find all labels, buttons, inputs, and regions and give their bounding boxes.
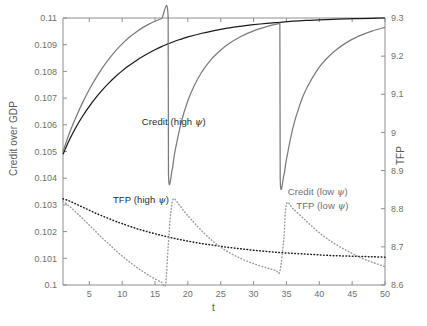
series-line-tfp-low — [63, 199, 385, 287]
y-tick-label-right: 8.7 — [391, 242, 404, 252]
y-tick-label-right: 9.3 — [391, 13, 404, 23]
series-label-tfp-low: TFP (low ψ) — [296, 200, 348, 211]
x-axis-title: t — [0, 302, 427, 313]
series-label-tfp-high: TFP (high ψ) — [113, 194, 169, 205]
y-tick-label-left: 0.105 — [34, 147, 57, 157]
x-tick-label: 10 — [117, 289, 127, 299]
x-tick-label: 35 — [281, 289, 291, 299]
paren-close: ) — [202, 116, 205, 127]
x-tick-label: 15 — [150, 289, 160, 299]
y-tick-label-left: 0.101 — [34, 254, 57, 264]
y-tick-label-left: 0.109 — [34, 40, 57, 50]
chart-canvas: 51015202530354045500.10.1010.1020.1030.1… — [0, 0, 427, 326]
psi-glyph: ψ — [158, 194, 166, 205]
y-tick-label-left: 0.107 — [34, 93, 57, 103]
psi-glyph: ψ — [337, 186, 345, 197]
x-tick-label: 20 — [183, 289, 193, 299]
x-tick-label: 45 — [347, 289, 357, 299]
series-label-credit-low: Credit (low ψ) — [288, 186, 348, 197]
paren-close: ) — [166, 194, 169, 205]
series-label-tfp-high-text: TFP (high — [113, 194, 158, 205]
y-axis-right-title: TFP — [395, 126, 406, 186]
y-tick-label-left: 0.104 — [34, 173, 57, 183]
y-axis-left-title: Credit over GDP — [8, 79, 19, 199]
y-tick-label-left: 0.1 — [44, 280, 57, 290]
series-label-tfp-low-text: TFP (low — [296, 200, 337, 211]
series-label-credit-low-text: Credit (low — [288, 186, 337, 197]
series-label-credit-high-text: Credit (high — [142, 116, 195, 127]
x-tick-label: 50 — [380, 289, 390, 299]
x-tick-label: 30 — [249, 289, 259, 299]
paren-close: ) — [345, 200, 348, 211]
y-tick-label-left: 0.106 — [34, 120, 57, 130]
series-label-credit-high: Credit (high ψ) — [142, 116, 206, 127]
x-tick-label: 40 — [314, 289, 324, 299]
y-tick-label-left: 0.11 — [40, 13, 57, 23]
y-tick-label-left: 0.103 — [34, 200, 57, 210]
series-line-credit-high — [63, 18, 385, 154]
chart-figure: 51015202530354045500.10.1010.1020.1030.1… — [0, 0, 427, 326]
paren-close: ) — [345, 186, 348, 197]
y-tick-label-right: 9.1 — [391, 89, 404, 99]
x-tick-label: 25 — [216, 289, 226, 299]
series-line-credit-low — [63, 6, 385, 190]
y-tick-label-right: 8.6 — [391, 280, 404, 290]
y-tick-label-right: 9.2 — [391, 51, 404, 61]
y-tick-label-right: 8.8 — [391, 204, 404, 214]
y-tick-label-left: 0.108 — [34, 67, 57, 77]
y-tick-label-left: 0.102 — [34, 227, 57, 237]
x-tick-label: 5 — [87, 289, 92, 299]
